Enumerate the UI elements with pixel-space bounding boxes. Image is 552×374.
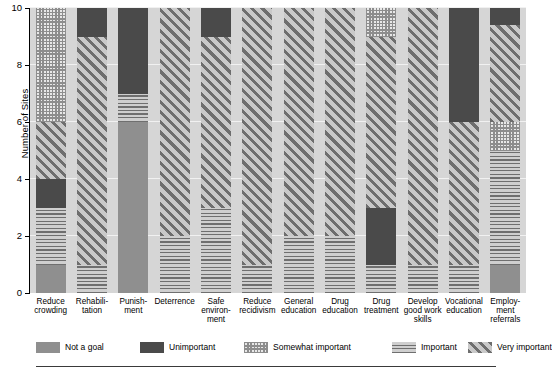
bar-segment[interactable]	[201, 37, 231, 208]
legend-swatch	[392, 342, 416, 353]
bar-segment[interactable]	[490, 151, 520, 265]
bar[interactable]	[160, 8, 190, 293]
legend-label: Not a goal	[65, 342, 104, 352]
bar-segment[interactable]	[36, 265, 66, 294]
legend-underline	[36, 366, 496, 367]
bar-segment[interactable]	[77, 8, 107, 37]
bar[interactable]	[449, 8, 479, 293]
bar-segment[interactable]	[160, 8, 190, 236]
bar-segment[interactable]	[284, 8, 314, 236]
bar[interactable]	[201, 8, 231, 293]
bar-segment[interactable]	[490, 265, 520, 294]
bar-segment[interactable]	[242, 8, 272, 265]
bar-segment[interactable]	[366, 208, 396, 265]
bar-segment[interactable]	[408, 265, 438, 294]
bar[interactable]	[408, 8, 438, 293]
bar-segment[interactable]	[366, 37, 396, 208]
bar-segment[interactable]	[36, 122, 66, 179]
legend-item[interactable]: Not a goal	[36, 340, 104, 354]
bar-segment[interactable]	[118, 8, 148, 94]
bar-segment[interactable]	[201, 8, 231, 37]
legend-swatch	[244, 342, 268, 353]
bar-segment[interactable]	[118, 122, 148, 293]
bar[interactable]	[490, 8, 520, 293]
x-axis-label: Employ- ment referrals	[478, 297, 532, 325]
plot-area	[30, 8, 526, 293]
bar-segment[interactable]	[408, 8, 438, 265]
bar-segment[interactable]	[242, 265, 272, 294]
bar[interactable]	[118, 8, 148, 293]
y-tick-label: 10	[0, 3, 22, 13]
bar-segment[interactable]	[36, 179, 66, 208]
legend-swatch	[468, 342, 492, 353]
bar-segment[interactable]	[490, 8, 520, 25]
legend-label: Unimportant	[169, 342, 215, 352]
bar-segment[interactable]	[366, 8, 396, 37]
y-tick-label: 8	[0, 60, 22, 70]
bar-segment[interactable]	[490, 122, 520, 151]
legend-swatch	[36, 342, 60, 353]
legend-item[interactable]: Very important	[468, 340, 552, 354]
legend-swatch	[140, 342, 164, 353]
chart-legend: Not a goalUnimportantSomewhat importantI…	[0, 340, 535, 362]
y-tick-label: 4	[0, 174, 22, 184]
bar-segment[interactable]	[36, 8, 66, 122]
bar[interactable]	[36, 8, 66, 293]
bar[interactable]	[284, 8, 314, 293]
bar[interactable]	[366, 8, 396, 293]
bar-segment[interactable]	[160, 236, 190, 293]
legend-label: Very important	[497, 342, 552, 352]
bar-segment[interactable]	[449, 265, 479, 294]
legend-item[interactable]: Unimportant	[140, 340, 215, 354]
y-tick-label: 2	[0, 231, 22, 241]
bar-segment[interactable]	[325, 236, 355, 293]
bar-segment[interactable]	[77, 37, 107, 265]
y-tick-label: 0	[0, 288, 22, 298]
bar-segment[interactable]	[118, 94, 148, 123]
bar-segment[interactable]	[449, 8, 479, 122]
bar-segment[interactable]	[201, 208, 231, 294]
bar-segment[interactable]	[325, 8, 355, 236]
bar-segment[interactable]	[284, 236, 314, 293]
legend-label: Important	[421, 342, 457, 352]
bar-segment[interactable]	[366, 265, 396, 294]
bar-segment[interactable]	[36, 208, 66, 265]
legend-item[interactable]: Important	[392, 340, 457, 354]
legend-item[interactable]: Somewhat important	[244, 340, 351, 354]
y-tick-label: 6	[0, 117, 22, 127]
bar[interactable]	[77, 8, 107, 293]
bar[interactable]	[242, 8, 272, 293]
bar-segment[interactable]	[449, 122, 479, 265]
bar[interactable]	[325, 8, 355, 293]
legend-label: Somewhat important	[273, 342, 351, 352]
bar-segment[interactable]	[490, 25, 520, 122]
bar-segment[interactable]	[77, 265, 107, 294]
